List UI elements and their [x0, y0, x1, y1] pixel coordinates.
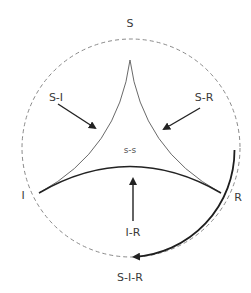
edge-label-i-r: I-R [126, 226, 141, 239]
s-i-arrow [58, 104, 95, 128]
center-label-ss: s-s [124, 145, 137, 155]
edge-label-s-i: S-I [49, 91, 63, 104]
r-to-sir-arc [134, 150, 235, 257]
diagram-canvas: S I R S-I-R s-s S-I S-R I-R [0, 0, 251, 293]
edge-label-s-r: S-R [195, 91, 214, 104]
s-r-arrow [164, 108, 200, 129]
node-label-sir: S-I-R [117, 271, 143, 284]
node-label-r: R [234, 191, 242, 204]
node-label-s: S [127, 17, 134, 30]
triangle-bottom-edge [39, 167, 221, 194]
node-label-i: I [21, 189, 24, 202]
